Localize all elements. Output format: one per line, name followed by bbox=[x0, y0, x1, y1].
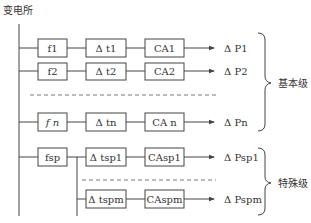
svg-text:Δ Psp1: Δ Psp1 bbox=[224, 152, 259, 163]
svg-text:CAspm: CAspm bbox=[147, 194, 183, 205]
special-row-m: Δ tspm CAspm Δ Pspm bbox=[77, 190, 262, 208]
brace-icon bbox=[258, 148, 271, 215]
substation-protection-diagram: 变电所 f1 Δ t1 CA1 Δ P1 f2 Δ t2 CA2 Δ P2 f … bbox=[0, 0, 311, 223]
basic-level-label: 基本级 bbox=[278, 77, 308, 89]
svg-text:CA2: CA2 bbox=[154, 66, 175, 77]
svg-text:CA1: CA1 bbox=[154, 43, 175, 54]
svg-text:Δ Pn: Δ Pn bbox=[224, 117, 248, 128]
special-row-1: Δ tsp1 CAsp1 Δ Psp1 bbox=[86, 148, 259, 166]
svg-text:Δ tn: Δ tn bbox=[96, 117, 117, 128]
svg-text:Δ P2: Δ P2 bbox=[224, 66, 248, 77]
special-level-label: 特殊级 bbox=[278, 177, 308, 189]
svg-text:f1: f1 bbox=[47, 43, 57, 54]
svg-text:Δ t1: Δ t1 bbox=[96, 43, 117, 54]
svg-text:CA n: CA n bbox=[152, 117, 177, 128]
svg-text:fsp: fsp bbox=[45, 152, 60, 163]
basic-row-n: f n Δ tn CA n Δ Pn bbox=[19, 113, 248, 131]
basic-row-1: f1 Δ t1 CA1 Δ P1 bbox=[19, 39, 248, 57]
svg-text:Δ Pspm: Δ Pspm bbox=[224, 194, 262, 205]
svg-text:Δ P1: Δ P1 bbox=[224, 43, 248, 54]
svg-text:f n: f n bbox=[45, 117, 59, 128]
svg-text:Δ t2: Δ t2 bbox=[96, 66, 117, 77]
svg-text:f2: f2 bbox=[47, 66, 57, 77]
basic-row-2: f2 Δ t2 CA2 Δ P2 bbox=[19, 63, 248, 80]
svg-text:Δ tsp1: Δ tsp1 bbox=[90, 152, 122, 163]
special-row-fsp: fsp bbox=[19, 148, 86, 216]
brace-icon bbox=[258, 33, 271, 131]
diagram-title: 变电所 bbox=[3, 4, 33, 16]
svg-text:CAsp1: CAsp1 bbox=[148, 152, 181, 163]
svg-text:Δ tspm: Δ tspm bbox=[88, 194, 124, 205]
